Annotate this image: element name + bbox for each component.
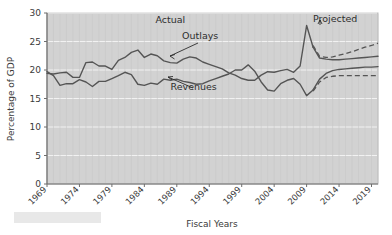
x-tick-label: 2014 [318, 184, 340, 206]
x-tick-label: 1969 [26, 184, 48, 206]
x-tick-label: 1994 [188, 184, 210, 206]
revenues-label: Revenues [171, 81, 217, 92]
y-tick-label: 25 [30, 37, 41, 47]
footer-color-block [14, 212, 101, 223]
y-tick-label: 15 [30, 94, 41, 104]
x-tick-label: 1989 [156, 184, 178, 206]
x-axis-ticks: 1969197419791984198919941999200420092014… [26, 184, 373, 207]
x-tick-label: 1974 [58, 184, 80, 206]
x-axis-title: Fiscal Years [186, 219, 238, 229]
x-tick-label: 2009 [286, 184, 308, 206]
x-tick-label: 2004 [253, 184, 275, 206]
x-tick-label: 1979 [91, 184, 113, 206]
chart-svg: 051015202530 196919741979198419891994199… [0, 0, 392, 235]
y-tick-label: 30 [30, 8, 42, 18]
chart-container: 051015202530 196919741979198419891994199… [0, 0, 392, 235]
projected-label: Projected [313, 13, 357, 24]
outlays-label: Outlays [182, 30, 218, 41]
x-tick-label: 1984 [123, 184, 145, 206]
y-tick-label: 5 [35, 151, 41, 161]
y-tick-label: 20 [30, 65, 42, 75]
x-tick-label: 2019 [351, 184, 373, 206]
y-axis-title: Percentage of GDP [6, 56, 16, 141]
x-tick-label: 1999 [221, 184, 243, 206]
actual-label: Actual [155, 14, 185, 25]
y-tick-label: 10 [30, 122, 42, 132]
y-axis-ticks: 051015202530 [30, 8, 47, 189]
